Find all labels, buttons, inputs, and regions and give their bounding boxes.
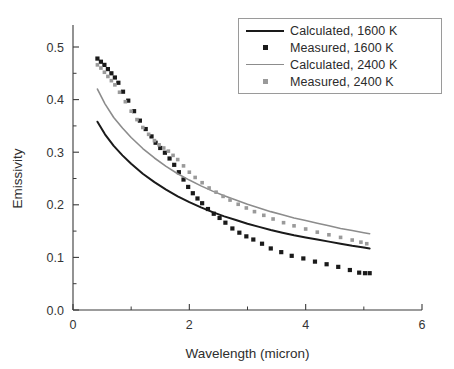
data-point [193,176,197,180]
data-point [147,133,151,137]
data-point [124,100,128,104]
legend-item: Calculated, 2400 K [243,56,435,73]
data-point [167,156,171,160]
legend-item-label: Calculated, 2400 K [287,58,397,72]
data-point [325,262,329,266]
data-point [106,75,110,79]
data-point [223,221,227,225]
data-point [99,66,103,70]
data-point [251,237,255,241]
legend-line-swatch [246,64,284,65]
data-point [359,240,363,244]
data-point [186,185,190,189]
data-point [327,233,331,237]
legend-key-square [243,45,287,50]
data-point [262,214,266,218]
data-point [245,206,249,210]
data-point [102,63,106,67]
data-point [269,246,273,250]
data-point [348,268,352,272]
data-point [365,242,369,246]
data-point [176,158,180,162]
data-point [237,231,241,235]
data-point [336,265,340,269]
y-axis-title: Emissivity [10,148,25,208]
data-point [212,212,216,216]
data-point [182,164,186,168]
x-axis-title: Wavelength (micron) [185,346,309,361]
data-point [292,224,296,228]
data-point [260,242,264,246]
data-point [200,201,204,205]
legend-item-label: Calculated, 1600 K [287,24,397,38]
data-point [282,221,286,225]
legend-key-square [243,79,287,84]
data-point [368,271,372,275]
legend-item-label: Measured, 2400 K [287,75,394,89]
x-tick-label: 2 [186,318,193,332]
data-point [228,198,232,202]
data-point [188,170,192,174]
data-point [236,202,240,206]
data-point [162,146,166,150]
data-point [106,67,110,71]
data-point [304,227,308,231]
data-point [121,90,125,94]
legend-key-line [243,30,287,32]
data-point [172,163,176,167]
data-point [221,195,225,199]
data-point [290,254,294,258]
data-point [207,186,211,190]
chart-legend: Calculated, 1600 KMeasured, 1600 KCalcul… [238,18,442,94]
y-tick-label: 0.3 [47,146,64,160]
y-tick-label: 0.5 [47,41,64,55]
data-point [167,149,171,153]
data-point [214,190,218,194]
data-point [113,83,117,87]
legend-key-line [243,64,287,65]
legend-item: Calculated, 1600 K [243,22,435,39]
data-point [363,271,367,275]
data-point [141,126,145,130]
data-point [217,216,221,220]
legend-item: Measured, 1600 K [243,39,435,56]
data-point [339,236,343,240]
data-point [135,118,139,122]
data-point [316,230,320,234]
data-point [301,256,305,260]
data-point [103,70,107,74]
data-point [118,90,122,94]
data-point [350,238,354,242]
data-point [271,217,275,221]
data-point [244,234,248,238]
data-point [206,207,210,211]
y-tick-label: 0.4 [47,93,64,107]
data-point [157,143,161,147]
data-point [116,81,120,85]
data-point [163,151,167,155]
data-point [313,260,317,264]
series-line-2 [97,89,369,234]
legend-square-swatch [263,79,268,84]
data-point [200,181,204,185]
data-point [110,79,114,83]
x-tick-label: 0 [70,318,77,332]
x-tick-label: 4 [302,318,309,332]
data-point [129,109,133,113]
y-tick-label: 0.1 [47,251,64,265]
data-point [191,191,195,195]
x-tick-label: 6 [419,318,426,332]
data-point [171,154,175,158]
data-point [96,63,100,67]
data-point [109,71,113,75]
data-point [253,210,257,214]
data-point [153,139,157,143]
legend-line-swatch [246,30,284,32]
data-point [357,271,361,275]
y-tick-label: 0.0 [47,304,64,318]
legend-item-label: Measured, 1600 K [287,41,394,55]
data-point [279,250,283,254]
emissivity-chart: 02460.00.10.20.30.40.5Wavelength (micron… [0,0,454,369]
legend-item: Measured, 2400 K [243,73,435,90]
data-point [113,75,117,79]
